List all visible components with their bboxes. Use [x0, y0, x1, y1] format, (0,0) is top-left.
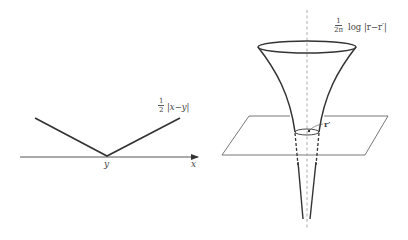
left-coef-denominator: 2	[159, 106, 163, 114]
left-function-expression: |x−y|	[167, 103, 189, 112]
right-coef-numerator: 1	[335, 18, 341, 26]
right-function-coefficient: 1 2π	[334, 18, 343, 34]
left-coef-numerator: 1	[158, 98, 164, 106]
axis-label-x: x	[191, 160, 196, 169]
funnel-lower-left	[298, 162, 303, 219]
funnel-hidden-left	[295, 133, 298, 165]
abs-value-v-curve	[35, 118, 180, 156]
funnel-lower-right	[310, 162, 316, 219]
plane	[222, 116, 388, 155]
diagram-canvas	[0, 0, 408, 240]
source-point	[308, 130, 310, 132]
left-panel-graph	[20, 118, 198, 157]
vertex-label-y: y	[104, 160, 109, 169]
right-panel-funnel	[222, 10, 388, 230]
right-coef-denominator: 2π	[334, 26, 343, 34]
right-function-expression: log |r−r′|	[348, 23, 387, 32]
funnel-left-wall	[258, 47, 295, 132]
point-label-r-prime: r′	[324, 120, 330, 128]
left-function-coefficient: 1 2	[158, 98, 164, 114]
funnel-hidden-right	[316, 133, 319, 165]
